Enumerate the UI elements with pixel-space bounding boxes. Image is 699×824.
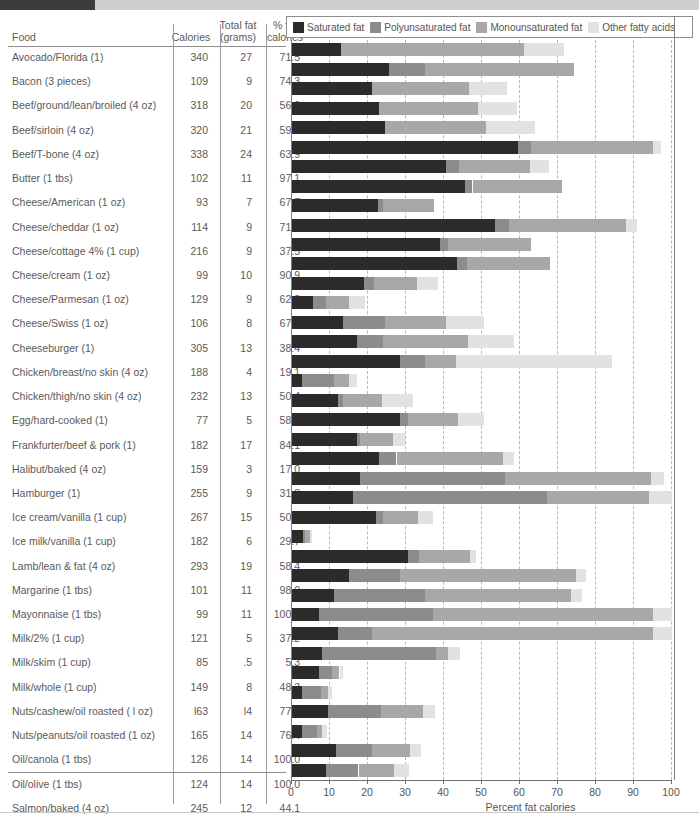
cell-calories: 149: [164, 681, 208, 693]
cell-total-fat: 19: [212, 560, 252, 572]
bar-segment-2: [360, 433, 393, 446]
bar-segment-1: [336, 744, 372, 757]
bar-segment-2: [341, 43, 523, 56]
cell-calories: 340: [164, 51, 208, 63]
bar-segment-2: [372, 744, 410, 757]
bar-segment-3: [486, 121, 535, 134]
page-bottom-rule: [0, 812, 699, 813]
x-tick-label: 90: [627, 786, 639, 798]
cell-calories: 109: [164, 75, 208, 87]
plot-area: [291, 40, 671, 780]
bar-segment-2: [372, 627, 653, 640]
cell-total-fat: 8: [212, 317, 252, 329]
bar-segment-2: [467, 257, 550, 270]
cell-calories: 293: [164, 560, 208, 572]
bar-segment-2: [433, 608, 653, 621]
cell-food: Bacon (3 pieces): [12, 75, 91, 87]
bar-segment-0: [292, 608, 319, 621]
cell-total-fat: 9: [212, 221, 252, 233]
bar-segment-0: [292, 589, 334, 602]
x-tick: [329, 780, 330, 784]
column-header-total-fat: Total fat (grams): [214, 20, 262, 43]
cell-total-fat: 20: [212, 99, 252, 111]
bar-segment-2: [448, 238, 531, 251]
cell-food: Cheese/Swiss (1 oz): [12, 317, 108, 329]
bar-segment-1: [408, 550, 419, 563]
bar-segment-1: [379, 452, 396, 465]
bar-segment-0: [292, 238, 440, 251]
legend-label: Saturated fat: [307, 22, 364, 33]
cell-food: Cheese/cottage 4% (1 cup): [12, 245, 139, 257]
bar-segment-1: [338, 627, 372, 640]
table-row: Milk/skim (1 cup)85.55.3: [8, 651, 286, 675]
table-row: Cheese/cottage 4% (1 cup)216937.5: [8, 240, 286, 264]
bar-segment-3: [310, 530, 312, 543]
bar-segment-0: [292, 394, 338, 407]
bar-segment-1: [465, 180, 473, 193]
bar-segment-1: [446, 160, 459, 173]
cell-food: Halibut/baked (4 oz): [12, 463, 106, 475]
cell-total-fat: 24: [212, 148, 252, 160]
cell-calories: 216: [164, 245, 208, 257]
cell-total-fat: 11: [212, 172, 252, 184]
cell-total-fat: 14: [212, 778, 252, 790]
cell-calories: 121: [164, 632, 208, 644]
cell-total-fat: 8: [212, 681, 252, 693]
cell-calories: 232: [164, 390, 208, 402]
bar-segment-2: [374, 277, 417, 290]
x-tick-label: 0: [288, 786, 294, 798]
bar-segment-0: [292, 277, 364, 290]
table-row: Beef/ground/lean/broiled (4 oz)3182056.6: [8, 94, 286, 118]
bar-segment-2: [505, 472, 651, 485]
bar-segment-3: [653, 608, 672, 621]
bar-segment-1: [302, 725, 317, 738]
cell-food: Hamburger (1): [12, 487, 80, 499]
bar-segment-1: [400, 355, 425, 368]
cell-total-fat: 3: [212, 463, 252, 475]
cell-total-fat: 9: [212, 245, 252, 257]
bar-segment-3: [423, 705, 435, 718]
bar-segment-2: [326, 296, 349, 309]
x-tick: [443, 780, 444, 784]
cell-food: Milk/whole (1 cup): [12, 681, 97, 693]
bar-segment-3: [576, 569, 586, 582]
table-row: Cheese/Swiss (1 oz)106867.9: [8, 312, 286, 336]
bar-segment-0: [292, 452, 379, 465]
bar-segment-3: [394, 764, 409, 777]
bar-segment-2: [547, 491, 650, 504]
column-divider-3: [266, 24, 267, 804]
cell-food: Frankfurter/beef & pork (1): [12, 439, 136, 451]
cell-calories: l63: [164, 705, 208, 717]
table-row: Beef/T-bone (4 oz)3382463.9: [8, 143, 286, 167]
cell-calories: 188: [164, 366, 208, 378]
cell-calories: 338: [164, 148, 208, 160]
cell-calories: 267: [164, 511, 208, 523]
legend-swatch-icon: [370, 22, 381, 33]
bar-segment-1: [400, 413, 408, 426]
bar-segment-1: [349, 569, 400, 582]
bar-segment-1: [328, 705, 381, 718]
bar-segment-1: [376, 511, 384, 524]
cell-total-fat: 7: [212, 196, 252, 208]
bar-segment-0: [292, 82, 372, 95]
cell-total-fat: 9: [212, 293, 252, 305]
bar-segment-2: [381, 705, 423, 718]
bar-segment-2: [385, 121, 486, 134]
bar-segment-3: [349, 296, 364, 309]
cell-food: Oil/olive (1 tbs): [12, 778, 82, 790]
bar-segment-2: [332, 666, 340, 679]
bar-segment-0: [292, 550, 408, 563]
cell-calories: 124: [164, 778, 208, 790]
x-tick-label: 100: [662, 786, 680, 798]
table-row: Avocado/Florida (1)3402771.5: [8, 46, 286, 70]
table-row: Halibut/baked (4 oz)159317.0: [8, 458, 286, 482]
bar-segment-0: [292, 335, 357, 348]
cell-total-fat: 14: [212, 729, 252, 741]
cell-calories: 102: [164, 172, 208, 184]
bar-segment-0: [292, 472, 360, 485]
bar-segment-0: [292, 257, 457, 270]
bar-segment-0: [292, 511, 376, 524]
figure-sheet: Food Calories Total fat (grams) % fat ca…: [0, 10, 699, 824]
column-header-calories: Calories: [168, 32, 214, 44]
bar-segment-2: [436, 647, 448, 660]
